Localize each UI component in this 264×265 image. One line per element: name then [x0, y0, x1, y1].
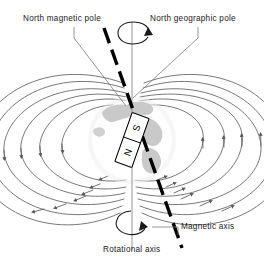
label-rotational-axis: Rotational axis: [103, 246, 160, 254]
label-north-geographic-pole: North geographic pole: [150, 15, 236, 23]
rotation-arrow-icon-top: [118, 22, 153, 44]
figure-canvas: S N North magnetic pole North geographic…: [0, 0, 264, 265]
field-arrow-icon: [55, 204, 66, 208]
field-arrow-icon: [62, 144, 63, 152]
label-north-magnetic-pole: North magnetic pole: [23, 15, 101, 23]
field-arrow-icon: [91, 184, 100, 188]
field-arrow-icon: [174, 189, 184, 194]
field-arrow-icon: [40, 146, 41, 155]
field-arrow-icon: [33, 209, 44, 212]
field-arrow-icon: [83, 190, 93, 194]
label-magnetic-axis: Magnetic axis: [181, 223, 234, 231]
leader-line-north-geographic-pole: [133, 27, 198, 98]
field-arrow-icon: [75, 196, 86, 201]
field-arrow-icon: [166, 183, 175, 187]
field-arrow-icon: [100, 176, 108, 180]
